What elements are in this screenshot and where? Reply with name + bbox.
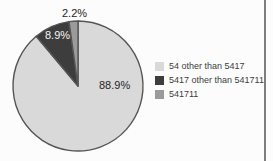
slice-label-54-other-than-5417: 88.9% [99, 80, 130, 91]
legend-swatch-icon [155, 76, 164, 85]
legend-label: 5417 other than 541711 [169, 75, 264, 85]
legend-item: 5417 other than 541711 [155, 75, 264, 85]
legend-item: 541711 [155, 89, 264, 99]
page-border-line [264, 0, 266, 161]
legend-label: 54 other than 5417 [169, 61, 245, 71]
legend-label: 541711 [169, 89, 198, 99]
slice-label-5417-other-than-541711: 8.9% [45, 30, 70, 41]
legend: 54 other than 5417 5417 other than 54171… [155, 61, 264, 99]
slice-label-541711: 2.2% [62, 8, 87, 19]
pie-chart-figure: 88.9% 8.9% 2.2% 54 other than 5417 5417 … [0, 0, 273, 161]
legend-item: 54 other than 5417 [155, 61, 264, 71]
legend-swatch-icon [155, 62, 164, 71]
legend-swatch-icon [155, 90, 164, 99]
